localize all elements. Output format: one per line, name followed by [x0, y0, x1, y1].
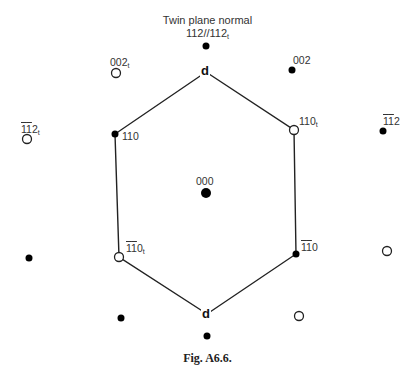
- d-label-bottom: d: [201, 307, 211, 320]
- label-bar1bar10: 110: [301, 242, 318, 253]
- label-110-twin-text: 110: [299, 115, 316, 127]
- spot-bar1bar10: [293, 251, 300, 258]
- label-bar1bar10-twin: 110t: [126, 243, 145, 255]
- label-000: 000: [196, 176, 214, 187]
- twin-plane-normal-index: 112//112t: [0, 28, 415, 40]
- twin-plane-index-text: 112//112: [186, 27, 227, 39]
- d-label-top: d: [200, 64, 210, 77]
- spot-000: [201, 188, 211, 198]
- label-bar1bar12-twin: 112t: [21, 124, 40, 136]
- label-002: 002: [293, 55, 311, 66]
- spot-110-twin: [290, 126, 299, 135]
- spot-lower-left: [118, 315, 125, 322]
- spot-right-far: [383, 247, 392, 256]
- twin-plane-normal-title: Twin plane normal: [0, 15, 415, 26]
- figure-caption: Fig. A6.6.: [0, 351, 415, 366]
- label-002-twin-sub: t: [128, 62, 130, 69]
- spot-left-far: [26, 255, 33, 262]
- spot-twin-plane-normal: [203, 43, 210, 50]
- spot-002: [289, 67, 296, 74]
- label-sub-t: t: [38, 129, 40, 136]
- spot-bottom: [204, 333, 211, 340]
- spot-002-twin: [112, 69, 121, 78]
- spot-bar1bar12: [380, 128, 387, 135]
- label-110-twin: 110t: [299, 116, 318, 128]
- label-002-twin: 002t: [110, 57, 129, 69]
- label-2: 2: [394, 115, 400, 127]
- label-110: 110: [122, 131, 139, 142]
- label-0: 0: [312, 241, 318, 253]
- spot-110: [112, 131, 119, 138]
- label-110-twin-sub: t: [316, 121, 318, 128]
- label-bar1bar12: 112: [383, 116, 400, 127]
- label-002-twin-text: 002: [110, 56, 128, 68]
- spot-bar1bar10-twin: [115, 253, 124, 262]
- label-sub-t: t: [143, 248, 145, 255]
- twin-plane-index-sub: t: [227, 33, 229, 40]
- diffraction-pattern-figure: Twin plane normal 112//112t d d 002t 002…: [0, 0, 415, 373]
- spot-lower-right: [295, 312, 304, 321]
